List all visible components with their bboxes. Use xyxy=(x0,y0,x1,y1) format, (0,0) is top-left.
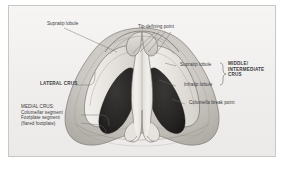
middle-crus-line-3: CRUS xyxy=(228,72,264,78)
label-supratip-lobule-top: Supratip lobule xyxy=(47,21,78,27)
label-medial-crus-block: MEDIAL CRUS: Columellar segment Footplat… xyxy=(21,104,63,126)
label-infratip-lobule: Infratip lobule xyxy=(184,82,212,88)
label-tip-defining-point: Tip-defining point xyxy=(138,24,174,30)
middle-crus-brace xyxy=(220,63,226,85)
label-middle-intermediate-crus: MIDDLE/ INTERMEDIATE CRUS xyxy=(228,61,264,78)
label-supratip-lobule-right: Supratip lobule xyxy=(180,62,211,68)
medial-crus-line-3: Footplate segment xyxy=(21,115,63,121)
label-columella-break-point: Columella break point xyxy=(189,100,234,106)
figure-page: Supratip lobule Tip-defining point Supra… xyxy=(0,0,282,172)
illustration-plate: Supratip lobule Tip-defining point Supra… xyxy=(8,5,276,157)
label-lateral-crus: LATERAL CRUS xyxy=(40,81,77,87)
medial-crus-line-4: (flared footplate) xyxy=(21,121,63,127)
